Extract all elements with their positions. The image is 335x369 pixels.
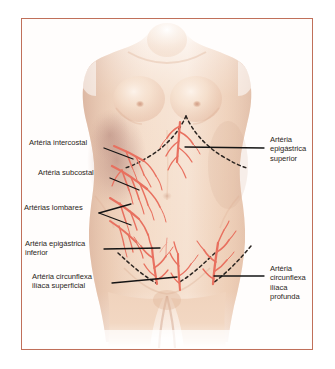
- anatomy-figure: Artéria intercostal Artéria subcostal Ar…: [0, 0, 335, 369]
- label-arteria-intercostal: Artéria intercostal: [29, 138, 111, 147]
- label-arteria-epigastrica-superior: Artéria epigástrica superior: [270, 135, 314, 163]
- label-arteria-circunflexa-iliaca-profunda: Artéria circunflexa ilíaca profunda: [270, 264, 314, 302]
- label-arterias-lombares: Artérias lombares: [24, 203, 106, 212]
- label-arteria-subcostal: Artéria subcostal: [38, 168, 116, 177]
- label-arteria-circunflexa-iliaca-superficial: Artéria circunflexa ilíaca superficial: [32, 272, 118, 291]
- label-arteria-epigastrica-inferior: Artéria epigástrica inferior: [25, 239, 109, 258]
